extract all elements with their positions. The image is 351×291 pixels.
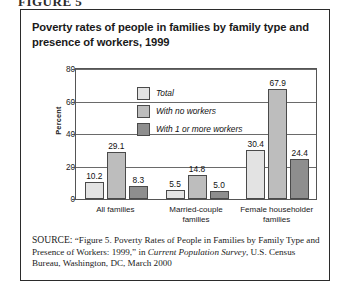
bar	[85, 182, 104, 199]
legend-label: Total	[156, 88, 174, 98]
legend-label: With 1 or more workers	[156, 124, 243, 134]
chart-title: Poverty rates of people in families by f…	[32, 20, 320, 49]
bar	[210, 191, 229, 199]
bar-value-label: 5.5	[169, 179, 181, 189]
legend-swatch	[137, 87, 150, 100]
bar	[246, 150, 265, 199]
bar	[290, 159, 309, 199]
legend-item: Total	[137, 84, 287, 102]
x-axis-group-label: Married-couplefamilies	[169, 205, 222, 224]
y-axis-ticks: 020406080	[32, 68, 75, 200]
bar	[107, 152, 126, 199]
figure-header: FIGURE 5	[18, 0, 82, 6]
source-publication: Current Population Survey	[148, 247, 246, 257]
bar-value-label: 8.3	[133, 175, 145, 185]
bar-value-label: 14.8	[189, 164, 205, 174]
x-axis-group-labels: All familiesMarried-couplefamiliesFemale…	[75, 203, 317, 231]
source-label: SOURCE:	[32, 234, 73, 245]
legend-item: With 1 or more workers	[137, 120, 287, 138]
y-axis-tick-label: 60	[37, 97, 75, 106]
bar	[129, 186, 148, 199]
x-axis-group-label: All families	[96, 205, 134, 215]
bar-value-label: 5.0	[213, 180, 225, 190]
chart-legend: TotalWith no workersWith 1 or more worke…	[137, 84, 287, 138]
bar-value-label: 24.4	[292, 148, 308, 158]
x-axis-group-label: Female householderfamilies	[240, 205, 313, 224]
source-note: SOURCE: “Figure 5. Poverty Rates of Peop…	[32, 234, 324, 270]
legend-swatch	[137, 105, 150, 118]
bar-value-label: 30.4	[248, 139, 264, 149]
legend-item: With no workers	[137, 102, 287, 120]
legend-swatch	[137, 123, 150, 136]
y-axis-tick-label: 0	[37, 195, 75, 204]
bar	[188, 175, 207, 199]
y-axis-tick-label: 80	[37, 65, 75, 74]
figure-box: Poverty rates of people in families by f…	[20, 9, 330, 281]
y-axis-tick-label: 40	[37, 130, 75, 139]
bar-value-label: 10.2	[86, 171, 102, 181]
chart-plot-wrapper: Percent 020406080 10.229.18.35.514.85.03…	[32, 60, 320, 232]
legend-label: With no workers	[156, 106, 216, 116]
bar-value-label: 29.1	[108, 141, 124, 151]
y-axis-tick-label: 20	[37, 162, 75, 171]
bar	[166, 190, 185, 199]
